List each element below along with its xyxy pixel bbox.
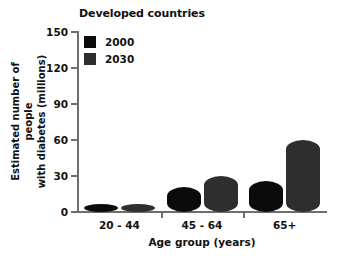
x-category-label: 65+ xyxy=(243,219,326,231)
y-axis-title-line-1: Estimated number of people xyxy=(9,42,35,202)
y-tick-mark xyxy=(71,211,77,213)
bar-2000-65+ xyxy=(249,181,283,212)
y-tick-label: 90 xyxy=(40,99,68,110)
x-category-label: 45 - 64 xyxy=(161,219,244,231)
y-tick-label: 30 xyxy=(40,171,68,182)
bar-2000-45-64 xyxy=(167,187,201,212)
y-axis-tick-labels: 0306090120150 xyxy=(38,0,68,260)
x-category-label: 20 - 44 xyxy=(78,219,161,231)
diabetes-bar-chart: Developed countries Estimated number of … xyxy=(0,0,342,260)
y-tick-mark xyxy=(71,139,77,141)
x-tick-mark xyxy=(243,213,245,218)
chart-title: Developed countries xyxy=(79,7,205,20)
y-tick-label: 0 xyxy=(40,207,68,218)
y-tick-mark xyxy=(71,67,77,69)
y-tick-label: 120 xyxy=(40,63,68,74)
y-tick-label: 60 xyxy=(40,135,68,146)
y-tick-mark xyxy=(71,103,77,105)
bar-2030-65+ xyxy=(286,140,320,212)
x-axis-title: Age group (years) xyxy=(78,236,326,248)
bar-2030-20-44 xyxy=(121,204,155,212)
x-tick-mark xyxy=(161,213,163,218)
plot-area xyxy=(78,32,326,212)
bar-2000-20-44 xyxy=(84,204,118,212)
y-tick-mark xyxy=(71,175,77,177)
y-tick-mark xyxy=(71,31,77,33)
bar-2030-45-64 xyxy=(204,176,238,212)
y-tick-label: 150 xyxy=(40,27,68,38)
